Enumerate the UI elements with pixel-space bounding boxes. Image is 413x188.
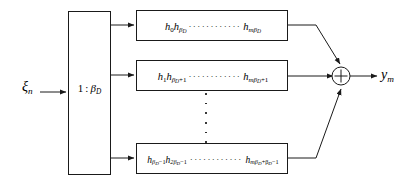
coef-h-betaDm1-subscript: βD−1 bbox=[152, 162, 165, 163]
horizontal-ellipsis-middle: ············ bbox=[188, 71, 241, 81]
wire-box-top-to-adder bbox=[288, 25, 340, 64]
splitter-ratio-left: 1 bbox=[78, 82, 84, 94]
filter-branch-top-label: h0hβD············hmβD bbox=[137, 11, 289, 42]
splitter-ratio-separator: : bbox=[85, 82, 88, 94]
input-signal-label: ξn bbox=[22, 80, 33, 94]
ellipsis-dot bbox=[205, 112, 207, 114]
vertical-ellipsis bbox=[200, 93, 212, 143]
coef-h-mbetaD-subsubscript: D bbox=[257, 28, 261, 34]
coef-h-2betaDm1-subscript: 2βD−1 bbox=[170, 162, 187, 163]
coef-h-betaD-subsubscript: D bbox=[182, 28, 186, 34]
coef-h-betaD1-subsubscript: D bbox=[175, 78, 179, 84]
coef-h-last-subscript: mβD+βD−1 bbox=[250, 162, 278, 163]
filter-branch-middle-label: h1hβD+1············hmβD+1 bbox=[137, 61, 289, 92]
filter-branch-box-top[interactable]: h0hβD············hmβD bbox=[136, 10, 288, 41]
coef-h-betaD1-tail: +1 bbox=[179, 76, 186, 83]
coef-h-mbetaD1-tail: +1 bbox=[261, 76, 268, 83]
block-diagram: ξn 1:βD h0hβD············hmβD h1hβD+1···… bbox=[0, 0, 413, 188]
output-subscript: m bbox=[387, 74, 394, 84]
splitter-ratio-label: 1:βD bbox=[68, 82, 111, 94]
ellipsis-dot bbox=[205, 103, 207, 105]
coef-h-last-subsubscript: D bbox=[258, 161, 262, 166]
ellipsis-dot bbox=[205, 93, 207, 95]
coef-h-mbetaD1-subsubscript: D bbox=[257, 78, 261, 84]
filter-branch-box-bottom[interactable]: hβD−1h2βD−1············hmβD+βD−1 bbox=[136, 143, 288, 174]
horizontal-ellipsis-top: ············ bbox=[188, 21, 241, 31]
coef-h-2betaDm1-tail: −1 bbox=[180, 158, 187, 165]
coef-h-last-tail2: −1 bbox=[272, 158, 279, 165]
coef-h-last-tailsub: D bbox=[268, 161, 272, 166]
horizontal-ellipsis-bottom: ············ bbox=[190, 154, 243, 164]
output-signal-label: ym bbox=[381, 68, 394, 82]
splitter-ratio-right-subscript: D bbox=[96, 88, 101, 96]
filter-branch-box-middle[interactable]: h1hβD+1············hmβD+1 bbox=[136, 60, 288, 91]
ellipsis-dot bbox=[205, 122, 207, 124]
coef-h-betaDm1-tail: −1 bbox=[159, 158, 166, 165]
filter-branch-bottom-label: hβD−1h2βD−1············hmβD+βD−1 bbox=[137, 144, 289, 175]
coef-h-betaDm1-subsubscript: D bbox=[155, 161, 159, 166]
wire-box-bottom-to-adder bbox=[288, 89, 341, 158]
coef-h-2betaDm1-subsubscript: D bbox=[177, 161, 181, 166]
ellipsis-dot bbox=[205, 132, 207, 134]
input-subscript: n bbox=[28, 86, 33, 96]
